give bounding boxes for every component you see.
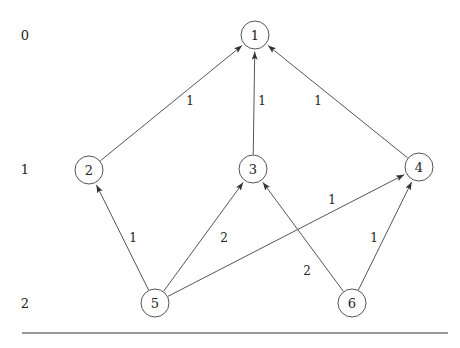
level-label-1: 1 — [21, 162, 29, 177]
edge-weight-6-to-4: 1 — [370, 231, 378, 245]
level-label-0: 0 — [21, 28, 29, 43]
graph-node-5[interactable]: 5 — [141, 289, 169, 317]
graph-edge-4-to-1 — [268, 45, 408, 158]
graph-edge-5-to-4 — [168, 175, 404, 297]
graph-edge-5-to-2 — [96, 185, 148, 290]
graph-edge-6-to-4 — [358, 182, 411, 290]
node-label-4: 4 — [415, 160, 423, 175]
edge-weight-3-to-1: 1 — [258, 94, 266, 108]
nodes-layer: 123456 — [75, 21, 433, 317]
edge-weight-2-to-1: 1 — [186, 94, 194, 108]
graph-node-3[interactable]: 3 — [239, 155, 267, 183]
edge-weight-4-to-1: 1 — [314, 94, 322, 108]
edge-weight-5-to-3: 2 — [220, 231, 228, 245]
graph-svg: 123456 11112121 012 — [0, 0, 460, 348]
level-label-2: 2 — [21, 296, 29, 311]
graph-node-6[interactable]: 6 — [338, 289, 366, 317]
node-label-6: 6 — [348, 296, 356, 311]
node-label-1: 1 — [251, 28, 259, 43]
node-label-2: 2 — [85, 163, 93, 178]
edge-weight-5-to-2: 1 — [129, 231, 137, 245]
graph-edge-5-to-3 — [164, 182, 244, 291]
graph-edge-2-to-1 — [100, 45, 242, 160]
graph-node-1[interactable]: 1 — [241, 21, 269, 49]
level-labels-layer: 012 — [21, 28, 29, 311]
edge-weight-5-to-4: 1 — [328, 193, 336, 207]
graph-node-4[interactable]: 4 — [405, 153, 433, 181]
node-label-3: 3 — [249, 162, 257, 177]
graph-node-2[interactable]: 2 — [75, 156, 103, 184]
node-label-5: 5 — [151, 296, 159, 311]
edge-weight-6-to-3: 2 — [303, 264, 311, 278]
graph-edge-3-to-1 — [253, 52, 255, 155]
diagram-canvas: 123456 11112121 012 — [0, 0, 460, 348]
